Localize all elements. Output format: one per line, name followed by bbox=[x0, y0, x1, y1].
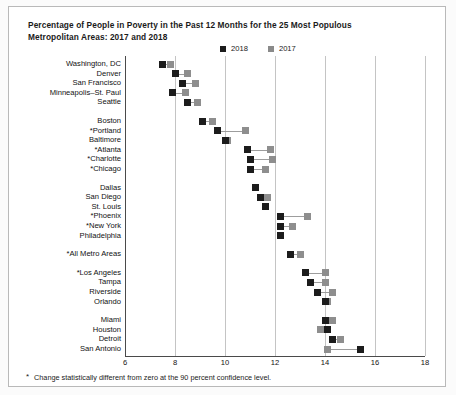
data-point-2017 bbox=[267, 146, 274, 153]
data-point-2017 bbox=[297, 251, 304, 258]
data-point-2018 bbox=[287, 251, 294, 258]
chart-title-line2: Metropolitan Areas: 2017 and 2018 bbox=[28, 32, 418, 44]
data-point-2017 bbox=[317, 326, 324, 333]
data-point-2018 bbox=[199, 118, 206, 125]
category-label-washington-dc: Washington, DC bbox=[66, 60, 121, 68]
category-label-philadelphia: Philadelphia bbox=[80, 232, 121, 240]
data-point-2018 bbox=[172, 70, 179, 77]
category-label-phoenix: *Phoenix bbox=[91, 212, 121, 220]
category-label-riverside: Riverside bbox=[89, 288, 121, 296]
category-label-minneapolis-st-paul: Minneapolis–St. Paul bbox=[50, 89, 121, 97]
data-point-2018 bbox=[302, 269, 309, 276]
data-point-2017 bbox=[329, 289, 336, 296]
footnote-text: Change statistically different from zero… bbox=[34, 373, 271, 382]
legend-item-2018: 2018 bbox=[220, 44, 248, 53]
data-point-2018 bbox=[222, 137, 229, 144]
x-tick-8: 8 bbox=[173, 358, 177, 367]
data-point-2017 bbox=[167, 61, 174, 68]
category-label-detroit: Detroit bbox=[99, 335, 121, 343]
x-axis-line bbox=[125, 356, 425, 357]
category-label-houston: Houston bbox=[93, 326, 121, 334]
category-label-miami: Miami bbox=[101, 316, 121, 324]
legend-item-2017: 2017 bbox=[268, 44, 296, 53]
category-label-denver: Denver bbox=[97, 70, 121, 78]
chart-page: Percentage of People in Poverty in the P… bbox=[0, 0, 456, 395]
data-point-2017 bbox=[264, 194, 271, 201]
data-point-2017 bbox=[322, 279, 329, 286]
connector-line bbox=[328, 349, 361, 350]
category-label-boston: Boston bbox=[97, 117, 121, 125]
data-point-2017 bbox=[194, 99, 201, 106]
category-label-baltimore: Baltimore bbox=[89, 136, 121, 144]
data-point-2018 bbox=[247, 156, 254, 163]
gridline-18 bbox=[425, 56, 426, 356]
legend-swatch-2018 bbox=[220, 46, 226, 52]
data-point-2017 bbox=[269, 156, 276, 163]
category-label-all-metro-areas: *All Metro Areas bbox=[67, 250, 121, 258]
x-tick-18: 18 bbox=[421, 358, 429, 367]
data-point-2017 bbox=[324, 346, 331, 353]
data-point-2017 bbox=[242, 127, 249, 134]
data-point-2018 bbox=[277, 223, 284, 230]
category-label-st-louis: St. Louis bbox=[91, 203, 121, 211]
legend-swatch-2017 bbox=[268, 46, 274, 52]
category-label-new-york: *New York bbox=[86, 222, 121, 230]
chart-title-line1: Percentage of People in Poverty in the P… bbox=[28, 20, 418, 32]
chart-legend: 20182017 bbox=[220, 44, 296, 53]
category-label-atlanta: *Atlanta bbox=[94, 146, 121, 154]
data-point-2018 bbox=[252, 184, 259, 191]
category-label-san-diego: San Diego bbox=[86, 193, 121, 201]
data-point-2018 bbox=[244, 146, 251, 153]
category-label-los-angeles: *Los Angeles bbox=[77, 269, 121, 277]
category-label-dallas: Dallas bbox=[100, 184, 121, 192]
data-point-2017 bbox=[209, 118, 216, 125]
category-label-orlando: Orlando bbox=[94, 298, 121, 306]
data-point-2017 bbox=[262, 166, 269, 173]
data-point-2018 bbox=[307, 279, 314, 286]
category-label-seattle: Seattle bbox=[97, 98, 121, 106]
data-point-2018 bbox=[159, 61, 166, 68]
category-axis-labels: Washington, DCDenverSan FranciscoMinneap… bbox=[0, 56, 121, 356]
data-point-2018 bbox=[179, 80, 186, 87]
x-tick-16: 16 bbox=[371, 358, 379, 367]
x-tick-14: 14 bbox=[321, 358, 329, 367]
data-point-2018 bbox=[314, 289, 321, 296]
category-label-san-antonio: San Antonio bbox=[80, 345, 121, 353]
category-label-charlotte: *Charlotte bbox=[87, 155, 121, 163]
data-point-2018 bbox=[324, 326, 331, 333]
footnote-marker: * bbox=[26, 372, 29, 381]
category-label-tampa: Tampa bbox=[98, 278, 121, 286]
legend-label-2017: 2017 bbox=[279, 44, 296, 53]
chart-title: Percentage of People in Poverty in the P… bbox=[28, 20, 418, 43]
data-point-2018 bbox=[277, 213, 284, 220]
category-label-portland: *Portland bbox=[90, 127, 121, 135]
x-tick-12: 12 bbox=[271, 358, 279, 367]
data-point-2018 bbox=[322, 298, 329, 305]
data-point-2017 bbox=[322, 269, 329, 276]
legend-label-2018: 2018 bbox=[231, 44, 248, 53]
data-point-2018 bbox=[329, 336, 336, 343]
data-point-2017 bbox=[337, 336, 344, 343]
data-point-2017 bbox=[289, 223, 296, 230]
data-point-2018 bbox=[262, 203, 269, 210]
data-point-2018 bbox=[247, 166, 254, 173]
data-point-2018 bbox=[322, 317, 329, 324]
data-point-2018 bbox=[257, 194, 264, 201]
data-point-2018 bbox=[169, 89, 176, 96]
x-tick-6: 6 bbox=[123, 358, 127, 367]
data-point-2018 bbox=[277, 232, 284, 239]
data-point-2017 bbox=[329, 317, 336, 324]
data-point-2017 bbox=[184, 70, 191, 77]
category-label-chicago: *Chicago bbox=[90, 165, 121, 173]
data-point-2018 bbox=[214, 127, 221, 134]
plot-area bbox=[125, 56, 425, 356]
data-point-2017 bbox=[182, 89, 189, 96]
category-label-san-francisco: San Francisco bbox=[72, 79, 121, 87]
data-point-2017 bbox=[192, 80, 199, 87]
x-tick-10: 10 bbox=[221, 358, 229, 367]
data-point-2018 bbox=[357, 346, 364, 353]
data-point-2017 bbox=[304, 213, 311, 220]
data-point-2018 bbox=[184, 99, 191, 106]
